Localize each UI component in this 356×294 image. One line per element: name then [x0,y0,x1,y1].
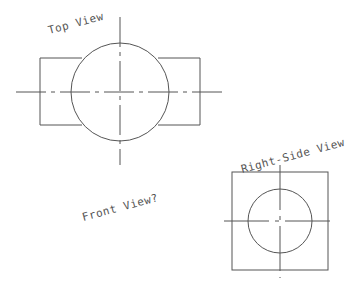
top-view [16,17,223,165]
right-side-view [224,165,335,278]
